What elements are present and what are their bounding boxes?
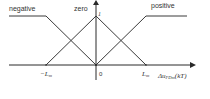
label-negative: negative [9,5,35,12]
x-axis-label-main: Δu [158,72,166,80]
pos-lm-sub: m [146,73,149,78]
y-axis-arrow-icon [93,0,99,5]
label-peak-one: 1 [98,11,101,17]
neg-lm-sub: m [49,73,52,78]
membership-function-diagram [0,0,210,99]
x-axis-label-tail: (kT) [175,72,187,80]
label-origin: 0 [99,71,102,77]
label-pos-lm: Lm [142,71,149,79]
x-axis-label-sub: FDm [166,75,175,80]
label-neg-lm: −Lm [40,71,52,79]
positive-membership-line [96,16,187,65]
neg-lm-tick [45,64,47,66]
origin-tick [95,64,97,66]
label-zero: zero [74,5,88,12]
neg-lm-text: −L [40,70,49,78]
x-axis-arrow-icon [190,62,196,68]
pos-lm-tick [145,64,147,66]
x-axis-label: ΔuFDm(kT) [158,73,187,81]
negative-membership-line [9,16,96,65]
label-positive: positive [151,2,175,9]
